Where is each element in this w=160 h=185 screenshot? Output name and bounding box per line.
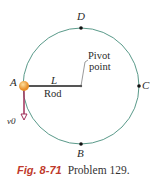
point-d-dot xyxy=(79,26,83,30)
velocity-label: v0 xyxy=(7,116,16,126)
label-d: D xyxy=(77,10,85,22)
pivot-label-line2: point xyxy=(89,61,111,72)
figure-number: Fig. 8-71 xyxy=(17,164,62,176)
rod-label: Rod xyxy=(44,88,62,99)
point-b-dot xyxy=(79,142,83,146)
caption-text: Problem 129. xyxy=(68,164,130,176)
label-b: B xyxy=(77,147,84,159)
label-a: A xyxy=(10,76,17,88)
ball xyxy=(19,81,29,91)
pivot-leader-line xyxy=(81,60,88,86)
velocity-arrowhead xyxy=(21,114,27,120)
point-c-dot xyxy=(137,84,141,88)
pivot-label-line1: Pivot xyxy=(88,50,110,61)
rod-length-label: L xyxy=(51,74,57,86)
figure-caption: Fig. 8-71Problem 129. xyxy=(17,164,130,176)
label-c: C xyxy=(142,79,149,91)
